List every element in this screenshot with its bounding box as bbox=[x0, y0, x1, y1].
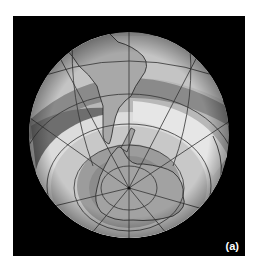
globe-surface bbox=[13, 16, 245, 256]
map-panel: (a) bbox=[13, 16, 245, 256]
panel-label: (a) bbox=[226, 240, 239, 252]
south-pole-marker bbox=[127, 186, 130, 189]
globe-map bbox=[13, 16, 245, 256]
